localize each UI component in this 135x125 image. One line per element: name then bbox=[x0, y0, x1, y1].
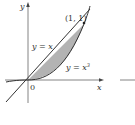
point-label: (1, 1) bbox=[65, 14, 87, 23]
line-equation-label: y = x bbox=[31, 42, 53, 51]
origin-label: 0 bbox=[30, 83, 35, 92]
x-axis-arrow-icon bbox=[99, 78, 104, 82]
y-axis-arrow-icon bbox=[26, 2, 30, 7]
x-axis-label: x bbox=[97, 83, 102, 92]
area-between-curves-diagram: y x 0 (1, 1) y = x y = x3 bbox=[0, 0, 135, 125]
cubic-equation-label: y = x3 bbox=[65, 62, 90, 72]
y-axis-label: y bbox=[19, 2, 25, 11]
